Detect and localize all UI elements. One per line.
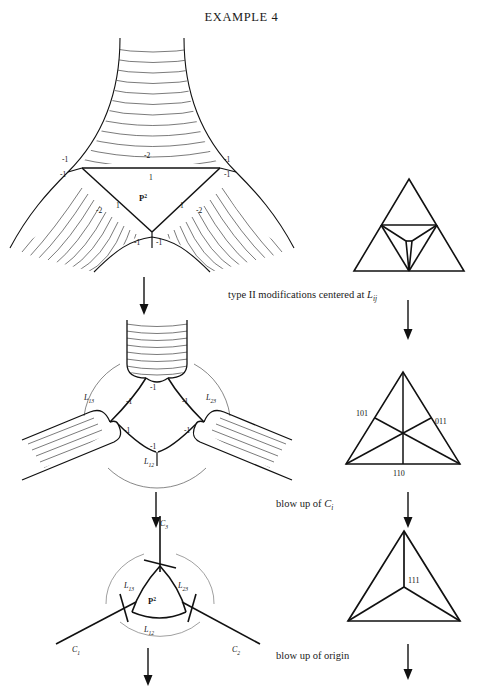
panel-mid-left: -1 -1 -1 -1 -1 -1 L13 L23 L12 (22, 320, 292, 500)
arc-lower-right (158, 424, 196, 452)
mid-right-triangle: 101 011 110 (338, 366, 468, 478)
label-mid-upper-right-number: -1 (182, 397, 188, 406)
label-top-right-number: -1 (224, 155, 230, 164)
arc-join-left (110, 421, 118, 424)
curve-c2 (182, 602, 260, 644)
label-left-arm-number: -2 (96, 206, 102, 215)
top-left-diagram: -1 -2 -1 -1 1 -1 -2 1 -2 1 -1 -1 P2 (8, 36, 308, 276)
bottom-left-p2-region (132, 566, 186, 618)
caption-type-ii: type II modifications centered at Lij (228, 289, 377, 303)
label-011: 011 (435, 417, 447, 426)
bottom-p2-label: P2 (148, 596, 156, 607)
median-left (381, 225, 409, 271)
label-l12: L12 (143, 457, 154, 468)
label-bottom-l13: L13 (123, 581, 134, 592)
panel-top-right (348, 175, 470, 280)
hatch-lower-left-arm (11, 166, 136, 275)
mid-left-central-hexagon (110, 378, 204, 452)
hatch-mid-upper (126, 324, 188, 375)
edge-l13 (132, 566, 160, 612)
page-title: EXAMPLE 4 (0, 10, 483, 25)
caption-type-ii-text: type II modifications centered at (228, 289, 367, 300)
bottom-left-diagram: C3 C1 C2 L13 L23 L12 P2 (48, 516, 268, 656)
caption-blow-up-c-sub: i (331, 503, 333, 512)
label-mid-bottom-number: -1 (150, 442, 156, 451)
caption-type-ii-sub: ij (373, 294, 377, 303)
label-bottom-left-number: -1 (134, 238, 140, 247)
caption-blow-up-origin: blow up of origin (276, 650, 349, 661)
label-bottom-right-number: -1 (156, 238, 162, 247)
figure-page: EXAMPLE 4 (0, 0, 483, 698)
median-right (409, 225, 437, 271)
caption-blow-up-c: blow up of Ci (276, 498, 333, 512)
label-right-arm-inner-number: 1 (180, 201, 184, 210)
arrow-top-left-to-mid-left (132, 277, 156, 317)
label-top-left-number: -1 (62, 155, 68, 164)
mid-left-diagram: -1 -1 -1 -1 -1 -1 L13 L23 L12 (22, 320, 292, 500)
label-mid-lower-left-number: -1 (124, 426, 130, 435)
arrow-bottom-right-out (396, 644, 420, 682)
label-top-mid-number: -2 (144, 151, 150, 160)
label-inner-left-number: -1 (60, 170, 66, 179)
label-bottom-l23: L23 (177, 581, 188, 592)
c-curves (56, 516, 260, 644)
label-101: 101 (356, 409, 368, 418)
p2-label: P2 (139, 193, 147, 204)
label-c1: C1 (72, 645, 80, 656)
hatch-upper-arm (76, 48, 230, 167)
label-111: 111 (408, 576, 419, 585)
label-l23: L23 (205, 393, 216, 404)
panel-mid-right: 101 011 110 (338, 366, 468, 478)
label-right-arm-number: -2 (196, 206, 202, 215)
curve-c1-cross (120, 594, 128, 622)
panel-top-left: -1 -2 -1 -1 1 -1 -2 1 -2 1 -1 -1 P2 (8, 36, 308, 276)
top-right-triangle (348, 175, 470, 280)
arc-join-right (196, 421, 204, 424)
label-c2: C2 (232, 645, 240, 656)
label-inner-right-number: -1 (224, 170, 230, 179)
label-mid-lower-right-number: -1 (184, 426, 190, 435)
label-left-arm-inner-number: 1 (116, 201, 120, 210)
label-inner-mid-number: 1 (149, 173, 153, 182)
edge-l12 (132, 612, 186, 618)
panel-bottom-right: 111 (340, 525, 468, 631)
spoke-right (404, 587, 460, 621)
bottom-right-triangle: 111 (340, 525, 468, 631)
arrow-bottom-left-out (136, 648, 160, 688)
arc-top (146, 378, 168, 382)
arrow-top-right-to-mid-right (396, 300, 420, 342)
label-bottom-l12: L12 (143, 625, 154, 636)
panel-bottom-left: C3 C1 C2 L13 L23 L12 P2 (48, 516, 268, 656)
caption-blow-up-c-text: blow up of (276, 498, 324, 509)
label-mid-top-number: -1 (150, 383, 156, 392)
label-mid-upper-left-number: -1 (126, 397, 132, 406)
spoke-left (348, 587, 404, 621)
label-110: 110 (393, 469, 405, 478)
label-c3: C3 (160, 519, 168, 530)
label-l13: L13 (83, 393, 94, 404)
hatch-lower-right-arm (168, 166, 293, 275)
